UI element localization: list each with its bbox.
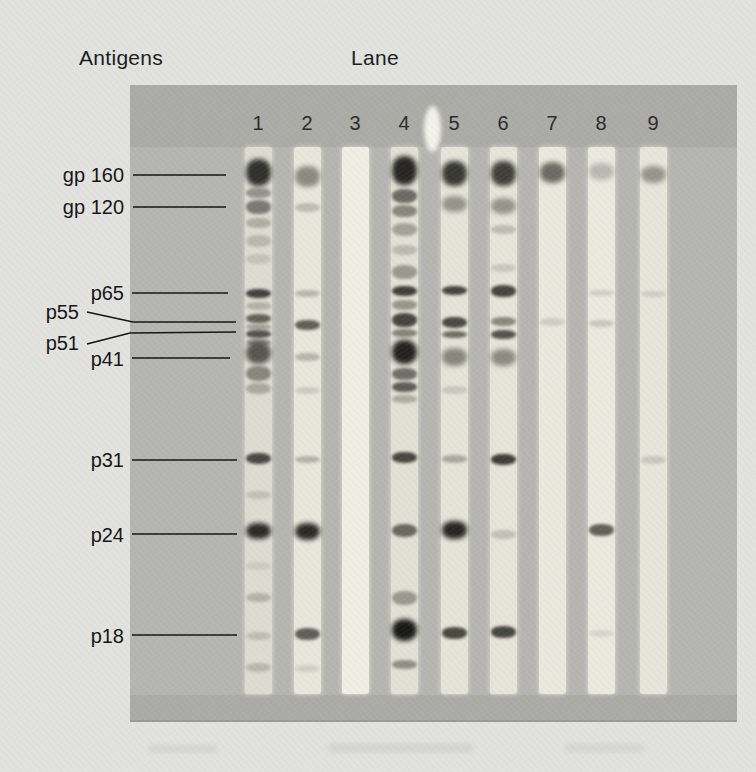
protein-band — [295, 665, 320, 672]
protein-band — [392, 340, 417, 364]
protein-band — [246, 562, 271, 570]
protein-band — [491, 161, 516, 186]
ghost-text-artifact — [328, 743, 473, 753]
protein-band — [392, 205, 417, 217]
lane-strip-2 — [294, 147, 321, 694]
antigen-label-gp160: gp 160 — [32, 163, 124, 187]
antigens-column-label: Antigens — [79, 46, 163, 70]
protein-band — [491, 626, 516, 638]
antigen-label-p18: p18 — [32, 624, 124, 648]
protein-band — [246, 453, 271, 464]
protein-band — [589, 290, 614, 296]
protein-band — [246, 188, 271, 198]
lane-strip-6 — [490, 147, 517, 694]
protein-band — [295, 387, 320, 394]
protein-band — [246, 200, 271, 214]
lane-strip-1 — [245, 147, 272, 694]
protein-band — [392, 300, 417, 310]
antigen-label-p55: p55 — [0, 300, 79, 324]
lane-strip-5 — [441, 147, 468, 694]
protein-band — [442, 161, 467, 186]
lane-number-5: 5 — [441, 112, 467, 135]
protein-band — [246, 235, 271, 247]
protein-band — [392, 286, 417, 296]
antigen-label-p24: p24 — [32, 523, 124, 547]
protein-band — [246, 254, 271, 264]
protein-band — [392, 368, 417, 380]
protein-band — [246, 383, 271, 394]
antigen-label-p31: p31 — [32, 448, 124, 472]
protein-band — [641, 166, 666, 183]
protein-band — [589, 320, 614, 327]
protein-band — [295, 166, 320, 187]
protein-band — [246, 366, 271, 381]
film-artifact-blob — [424, 106, 441, 152]
protein-band — [392, 524, 417, 537]
protein-band — [392, 156, 417, 185]
protein-band — [491, 530, 516, 539]
ghost-text-artifact — [148, 745, 218, 753]
antigen-label-p41: p41 — [32, 347, 124, 371]
antigen-label-gp120: gp 120 — [32, 195, 124, 219]
protein-band — [246, 330, 271, 338]
protein-band — [246, 663, 271, 672]
lane-number-2: 2 — [294, 112, 320, 135]
lane-strip-7 — [539, 147, 566, 694]
protein-band — [246, 218, 271, 228]
protein-band — [392, 313, 417, 327]
protein-band — [491, 285, 516, 297]
lane-column-label: Lane — [351, 46, 399, 70]
protein-band — [392, 452, 417, 463]
protein-band — [246, 159, 271, 186]
protein-band — [392, 189, 417, 203]
lane-strip-9 — [640, 147, 667, 694]
protein-band — [442, 521, 467, 539]
protein-band — [295, 290, 320, 297]
protein-band — [442, 386, 467, 394]
lane-number-4: 4 — [391, 112, 417, 135]
protein-band — [392, 329, 417, 337]
protein-band — [442, 286, 467, 295]
lane-strip-3 — [342, 147, 369, 694]
protein-band — [491, 349, 516, 366]
lane-number-8: 8 — [588, 112, 614, 135]
protein-band — [295, 456, 320, 463]
protein-band — [442, 348, 467, 366]
protein-band — [589, 524, 614, 536]
western-blot-figure: Antigens Lane 123456789 gp 160gp 120p65p… — [0, 0, 756, 772]
protein-band — [442, 317, 467, 328]
protein-band — [295, 203, 320, 212]
lane-number-3: 3 — [342, 112, 368, 135]
lane-number-7: 7 — [539, 112, 565, 135]
protein-band — [491, 225, 516, 234]
protein-band — [392, 245, 417, 255]
protein-band — [392, 591, 417, 605]
protein-band — [246, 523, 271, 539]
protein-band — [491, 317, 516, 326]
ghost-text-artifact — [565, 744, 645, 752]
protein-band — [246, 342, 271, 364]
protein-band — [295, 353, 320, 361]
protein-band — [491, 264, 516, 272]
protein-band — [442, 455, 467, 463]
protein-band — [641, 291, 666, 297]
protein-band — [442, 331, 467, 338]
protein-band — [641, 456, 666, 464]
protein-band — [491, 330, 516, 339]
protein-band — [295, 523, 320, 540]
protein-band — [392, 265, 417, 279]
protein-band — [540, 318, 565, 326]
protein-band — [246, 289, 271, 298]
protein-band — [246, 632, 271, 640]
protein-band — [295, 628, 320, 640]
lane-number-1: 1 — [245, 112, 271, 135]
protein-band — [295, 320, 320, 330]
protein-band — [246, 314, 271, 323]
protein-band — [491, 454, 516, 465]
protein-band — [246, 491, 271, 499]
protein-band — [392, 619, 417, 641]
protein-band — [392, 223, 417, 236]
protein-band — [246, 302, 271, 310]
protein-band — [246, 593, 271, 602]
protein-band — [491, 198, 516, 214]
